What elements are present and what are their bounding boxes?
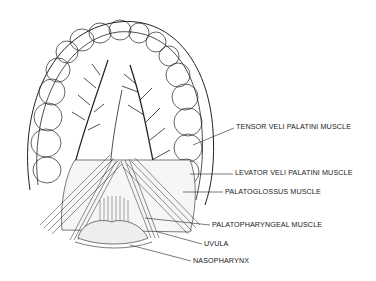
label-nasopharynx: NASOPHARYNX (193, 256, 249, 265)
label-uvula: UVULA (204, 239, 228, 248)
label-palatopharyngeal: PALATOPHARYNGEAL MUSCLE (212, 220, 322, 229)
label-palatoglossus: PALATOGLOSSUS MUSCLE (225, 187, 321, 196)
label-tensor-veli-palatini: TENSOR VELI PALATINI MUSCLE (236, 122, 351, 131)
anatomical-diagram: TENSOR VELI PALATINI MUSCLE LEVATOR VELI… (0, 0, 376, 281)
palate-illustration (0, 0, 376, 281)
label-levator-veli-palatini: LEVATOR VELI PALATINI MUSCLE (235, 168, 353, 177)
